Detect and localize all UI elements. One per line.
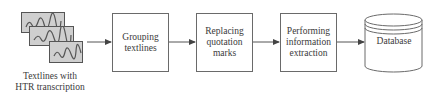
- diagram-connectors: [0, 0, 439, 94]
- database-label: Database: [365, 36, 423, 46]
